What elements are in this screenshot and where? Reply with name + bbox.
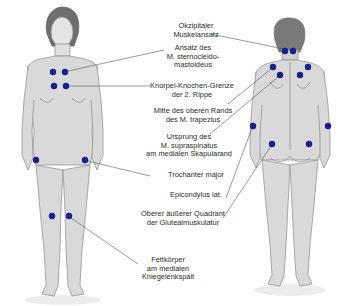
tender-point-front-sternocleidomastoideus [62,69,68,75]
tender-point-front-knee [66,213,72,219]
label-gluteal: Oberer äußerer Quadrant der Glutealmusku… [141,210,225,227]
tender-point-front-2nd-rib [51,83,57,89]
label-sternocleido: Ansatz des M. sternocleido- mastoideus [167,44,220,70]
tender-point-front-trochanter [82,157,88,163]
label-fettkoerper: Fettkörper am medialen Kniegelenkspalt [142,256,194,282]
tender-point-front-2nd-rib [63,83,69,89]
label-trochanter: Trochanter major [168,171,224,180]
front-figure [22,7,103,305]
tender-points-diagram: Okzipitaler MuskelansatzAnsatz des M. st… [0,0,347,306]
tender-point-front-trochanter [33,157,39,163]
tender-point-back-supraspinatus [297,72,303,78]
tender-point-back-occiput [290,48,296,54]
tender-point-back-epicondylus [250,123,256,129]
back-figure [250,18,330,296]
leader-line-okzipital [211,34,284,49]
label-trapezius: Mitte des oberen Rands des M. trapezius [154,107,232,124]
label-knorpel: Knorpel-Knochen-Grenze der 2. Rippe [150,82,234,99]
tender-point-back-gluteal [269,141,275,147]
tender-point-back-trapezius [270,64,276,70]
tender-point-back-epicondylus [325,123,331,129]
tender-point-back-gluteal [306,141,312,147]
tender-point-back-supraspinatus [277,72,283,78]
tender-point-front-sternocleidomastoideus [50,69,56,75]
label-okzipital: Okzipitaler Muskelansatz [173,22,218,39]
label-supraspinatus: Ursprung des M. supraspinatus am mediale… [146,133,232,159]
tender-point-back-occiput [282,48,288,54]
label-epicondylus: Epicondylus lat. [170,191,222,200]
tender-point-back-trapezius [305,64,311,70]
tender-point-front-knee [49,213,55,219]
